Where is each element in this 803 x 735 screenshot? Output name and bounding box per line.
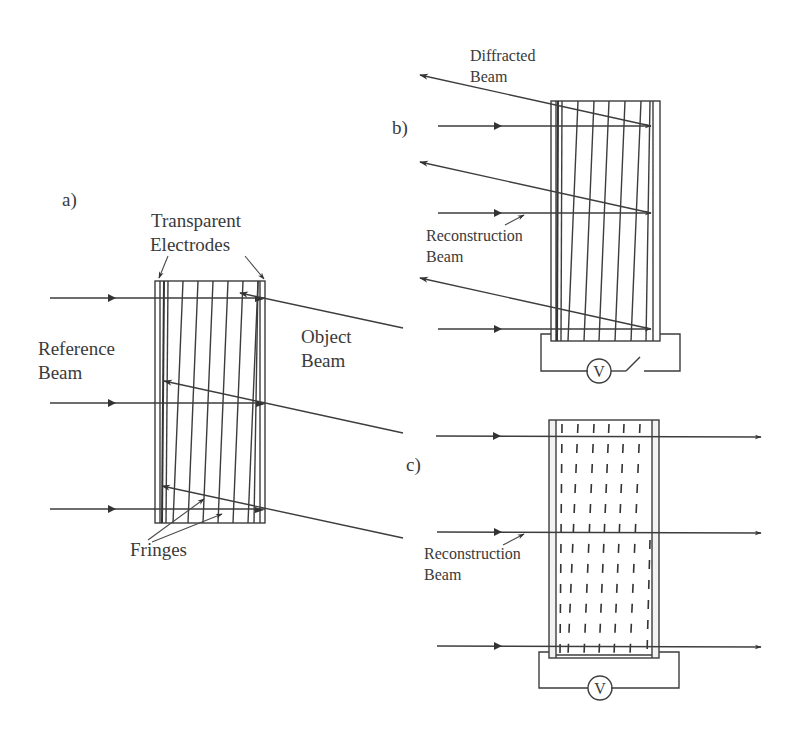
panel-a-label: a) [62, 189, 77, 211]
panel-b: b) Diffracted Beam Reconstruction Beam [392, 47, 680, 383]
electrodes-label-line1: Transparent [151, 210, 242, 231]
panel-c: c) Reconstruction Beam [406, 420, 761, 700]
reconstruction-pointer-c [503, 534, 524, 545]
reconstruction-beam-label-c-line2: Beam [424, 566, 462, 583]
panel-c-label: c) [406, 454, 421, 476]
diffracted-beam-2 [420, 162, 651, 213]
reconstruction-beam-label-c-line1: Reconstruction [424, 545, 521, 562]
voltmeter-b-symbol: V [593, 363, 605, 380]
diffracted-beam-label-line1: Diffracted [470, 47, 535, 64]
object-beam-label-line2: Beam [301, 350, 346, 371]
electrodes-label-line2: Electrodes [150, 234, 230, 255]
voltage-circuit-c: V [539, 652, 679, 700]
electrode-pointer-left [159, 256, 168, 278]
open-switch-icon [626, 357, 640, 371]
reference-beam-label-line1: Reference [38, 338, 115, 359]
electrode-pointer-right [245, 256, 264, 279]
voltmeter-c-symbol: V [594, 680, 606, 697]
photorefractive-crystal-b [551, 101, 660, 341]
object-beam-3 [162, 486, 403, 538]
reconstruction-pointer-b [505, 215, 524, 225]
photorefractive-crystal-a [155, 281, 265, 523]
reconstruction-beam-label-b-line2: Beam [426, 248, 464, 265]
transmitted-beam-c-2 [437, 532, 761, 533]
erased-crystal-c [549, 420, 659, 658]
reconstruction-beam-label-b-line1: Reconstruction [426, 227, 523, 244]
fringe-pointer-1 [148, 499, 204, 540]
panel-a: a) Transparent Electrodes Reference Beam… [38, 189, 403, 560]
transmitted-beam-c-3 [437, 646, 761, 647]
fringes-label: Fringes [130, 539, 187, 560]
transmitted-beam-c-1 [436, 436, 761, 437]
panel-b-label: b) [392, 117, 408, 139]
reference-beam-label-line2: Beam [38, 362, 83, 383]
object-beam-2 [164, 381, 403, 433]
holography-diagram: a) Transparent Electrodes Reference Beam… [0, 0, 803, 735]
diffracted-beam-label-line2: Beam [470, 68, 508, 85]
object-beam-label-line1: Object [301, 326, 352, 347]
